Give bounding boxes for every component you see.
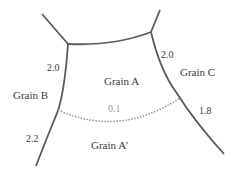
boundary-top [68, 32, 151, 44]
grain-b-label: Grain B [13, 90, 48, 101]
boundary-top-right [151, 10, 160, 32]
grain-c-label: Grain C [180, 67, 215, 78]
right-lower-value: 1.8 [199, 106, 212, 116]
left-lower-value: 2.2 [26, 134, 39, 144]
left-upper-value: 2.0 [47, 63, 60, 73]
right-upper-value: 2.0 [161, 50, 174, 60]
grain-a-prime-label: Grain A’ [91, 140, 129, 151]
dotted-boundary-value: 0.1 [108, 104, 121, 114]
grain-a-label: Grain A [104, 76, 139, 87]
boundary-top-left [42, 14, 68, 44]
